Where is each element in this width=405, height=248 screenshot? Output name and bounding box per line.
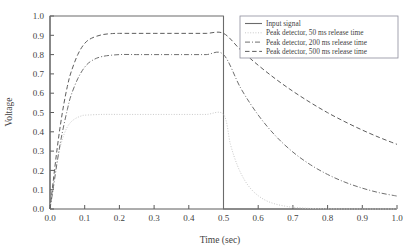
- y-tick-label: 0.2: [33, 166, 44, 176]
- y-tick-label: 1.0: [33, 11, 45, 21]
- y-tick-label: 0.7: [33, 69, 45, 79]
- y-tick-label: 0.0: [33, 204, 45, 214]
- y-tick-label: 0.8: [33, 50, 45, 60]
- legend-label-4: Peak detector, 500 ms release time: [266, 47, 367, 56]
- x-tick-label: 0.7: [287, 213, 299, 223]
- legend-label-3: Peak detector, 200 ms release time: [266, 38, 367, 47]
- x-tick-label: 0.0: [44, 213, 56, 223]
- y-tick-label: 0.1: [33, 185, 44, 195]
- x-tick-label: 0.6: [253, 213, 265, 223]
- x-tick-label: 0.9: [357, 213, 369, 223]
- x-axis-title: Time (sec): [200, 235, 241, 246]
- chart-figure: 0.00.10.20.30.40.50.60.70.80.91.0 0.00.1…: [0, 0, 405, 248]
- y-axis-title: Voltage: [4, 98, 14, 127]
- legend-label-1: Input signal: [266, 19, 301, 28]
- x-tick-label: 1.0: [391, 213, 403, 223]
- x-tick-label: 0.5: [218, 213, 230, 223]
- y-tick-label: 0.3: [33, 146, 45, 156]
- chart-legend: Input signalPeak detector, 50 ms release…: [240, 16, 398, 58]
- x-tick-label: 0.4: [183, 213, 195, 223]
- peak-detector-line-chart: 0.00.10.20.30.40.50.60.70.80.91.0 0.00.1…: [0, 0, 405, 248]
- x-tick-label: 0.3: [148, 213, 160, 223]
- y-tick-label: 0.9: [33, 31, 45, 41]
- y-tick-label: 0.6: [33, 88, 45, 98]
- x-tick-label: 0.8: [322, 213, 334, 223]
- x-tick-label: 0.2: [114, 213, 125, 223]
- x-tick-label: 0.1: [79, 213, 90, 223]
- legend-label-2: Peak detector, 50 ms release time: [266, 28, 363, 37]
- y-tick-label: 0.4: [33, 127, 45, 137]
- y-tick-label: 0.5: [33, 108, 45, 118]
